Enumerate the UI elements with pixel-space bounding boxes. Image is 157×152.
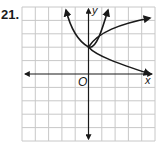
- axes: [25, 9, 152, 139]
- x-axis-label: x: [145, 74, 151, 86]
- curves: [66, 10, 150, 74]
- y-axis-label: y: [92, 4, 98, 16]
- sideways-parabola-curve: [89, 18, 151, 74]
- origin-label: O: [78, 75, 87, 89]
